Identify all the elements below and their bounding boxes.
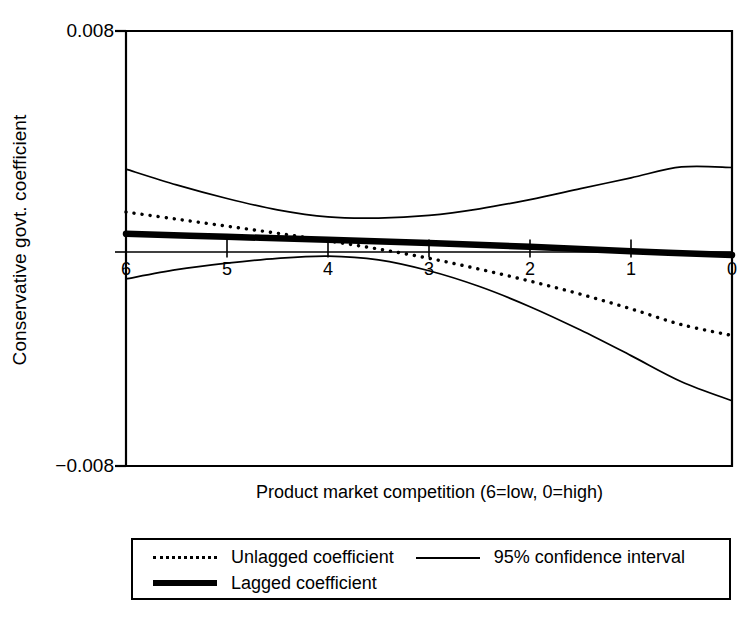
y-axis-ticks [115, 31, 126, 466]
series-ci-upper [126, 166, 732, 218]
legend-label-lagged: Lagged coefficient [231, 573, 377, 594]
legend-swatch-thin-line-icon [412, 548, 484, 566]
x-axis-tick-label: 4 [315, 259, 341, 280]
x-axis-tick-label: 2 [517, 259, 543, 280]
x-axis-tick-label: 5 [214, 259, 240, 280]
chart-legend: Unlagged coefficient 95% confidence inte… [131, 538, 731, 600]
legend-row-bottom: Lagged coefficient [149, 570, 395, 596]
legend-label-unlagged: Unlagged coefficient [231, 547, 394, 568]
x-axis-tick-label: 0 [719, 259, 745, 280]
legend-swatch-dotted-icon [149, 548, 221, 566]
x-axis-title: Product market competition (6=low, 0=hig… [126, 482, 733, 503]
legend-row-top: Unlagged coefficient 95% confidence inte… [149, 544, 703, 570]
x-axis-tick-label: 1 [618, 259, 644, 280]
x-axis-tick-label: 3 [416, 259, 442, 280]
legend-swatch-thick-line-icon [149, 574, 221, 592]
chart-figure: Conservative govt. coefficient 0.008 −0.… [0, 0, 751, 634]
x-axis-tick-label: 6 [113, 259, 139, 280]
legend-label-confidence-interval: 95% confidence interval [494, 547, 685, 568]
